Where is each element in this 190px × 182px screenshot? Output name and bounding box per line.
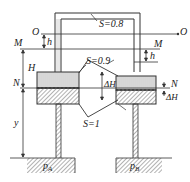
label-M-right: M [153, 38, 163, 49]
label-N-right: N [170, 78, 179, 89]
manometer-diagram: O O M M h h H N N ΔH ΔH y S=0.8 S=0.9 S=… [0, 0, 190, 182]
label-O-left: O [32, 26, 39, 37]
right-reservoir [116, 76, 172, 173]
label-S-bottom: S=1 [83, 118, 100, 129]
label-H: H [27, 62, 36, 73]
label-h-left: h [47, 36, 52, 47]
label-y: y [13, 117, 19, 128]
label-dH-right: ΔH [165, 92, 178, 102]
label-S-mid: S=0.9 [86, 55, 110, 66]
label-N-left: N [12, 77, 21, 88]
label-O-right: O [180, 26, 187, 37]
left-reservoir [10, 72, 79, 173]
label-dH-mid: ΔH [103, 79, 116, 89]
label-h-right: h [150, 50, 155, 61]
label-S-top: S=0.8 [99, 18, 123, 29]
left-riser-wall [55, 19, 61, 72]
label-M-left: M [13, 37, 23, 48]
